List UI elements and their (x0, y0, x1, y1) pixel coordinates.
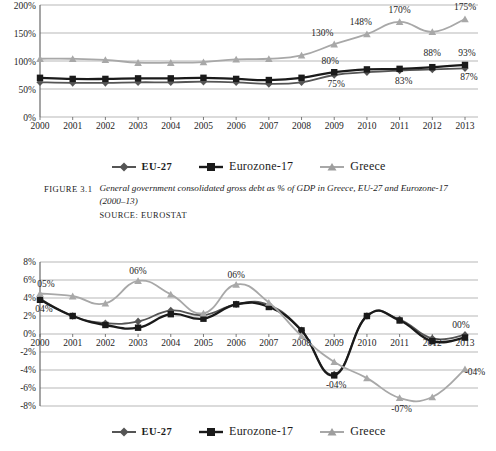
x-tick-labels: 2000200120022003200420052006200720082009… (31, 338, 475, 348)
figure-2-chart: -8%-6%-4%-2%0%2%4%6%8% 05%04%06%06%-04%-… (0, 252, 496, 422)
x-tick-label: 2006 (227, 121, 246, 131)
series-greece (36, 15, 469, 65)
data-label: -04% (326, 380, 347, 390)
x-tick-label: 2007 (259, 121, 278, 131)
y-tick: 4% (23, 293, 36, 303)
data-label: 148% (350, 17, 372, 27)
data-label: 175% (454, 2, 476, 12)
x-tick-label: 2006 (227, 338, 246, 348)
x-tick-label: 2001 (63, 338, 82, 348)
y-tick: 150% (14, 29, 36, 39)
y-tick: -8% (20, 401, 36, 411)
debt-line-chart: 200% 150% 100% 50% 0% 80%75%88%83%93%87%… (0, 0, 496, 158)
y-tick: -6% (20, 383, 36, 393)
x-tick-label: 2008 (292, 121, 311, 131)
x-tick-label: 2009 (325, 121, 344, 131)
x-tick-label: 2003 (129, 338, 148, 348)
x-tick-label: 2013 (456, 338, 475, 348)
x-tick-label: 2000 (31, 121, 50, 131)
data-label: 93% (458, 48, 476, 58)
x-tick-label: 2009 (325, 338, 344, 348)
legend-label-eurozone17: Eurozone-17 (229, 424, 293, 439)
x-tick-label: 2012 (423, 121, 442, 131)
caption-tag: FIGURE 3.1 (44, 182, 92, 222)
x-tick-label: 2011 (390, 338, 409, 348)
legend-label-greece: Greece (350, 159, 385, 174)
caption-text: General government consolidated gross de… (99, 183, 447, 206)
data-label: 00% (452, 320, 470, 330)
x-tick-label: 2003 (129, 121, 148, 131)
y-tick: 2% (23, 311, 36, 321)
figure-1: 200% 150% 100% 50% 0% 80%75%88%83%93%87%… (0, 0, 496, 222)
eurozone17-legend-marker-icon (198, 426, 224, 438)
data-label: 06% (227, 270, 245, 280)
y-tick: -4% (20, 365, 36, 375)
figure-2: -8%-6%-4%-2%0%2%4%6%8% 05%04%06%06%-04%-… (0, 252, 496, 439)
greece-legend-marker-icon (319, 426, 345, 438)
x-tick-label: 2011 (390, 121, 409, 131)
legend-item-greece[interactable]: Greece (319, 159, 385, 174)
x-tick-label: 2005 (194, 121, 213, 131)
y-tick-labels: 200% 150% 100% 50% 0% (14, 1, 36, 123)
growth-line-chart: -8%-6%-4%-2%0%2%4%6%8% 05%04%06%06%-04%-… (0, 252, 496, 422)
figure-1-caption: FIGURE 3.1 General government consolidat… (44, 182, 462, 222)
data-label: 75% (328, 79, 346, 89)
x-tick-label: 2000 (31, 338, 50, 348)
legend-label-greece: Greece (350, 424, 385, 439)
data-label: -04% (465, 367, 486, 377)
legend-item-eu27[interactable]: EU-27 (111, 161, 173, 173)
x-tick-labels: 2000200120022003200420052006200720082009… (31, 121, 475, 131)
x-tick-label: 2010 (357, 121, 376, 131)
legend-item-greece[interactable]: Greece (319, 424, 385, 439)
data-label: 170% (389, 5, 411, 15)
data-label: 87% (460, 72, 478, 82)
y-tick: 6% (23, 275, 36, 285)
x-tick-label: 2004 (161, 338, 180, 348)
eu27-legend-marker-icon (111, 161, 137, 173)
series-eu-27 (36, 295, 468, 378)
legend-label-eu27: EU-27 (142, 161, 173, 172)
figure-2-legend: EU-27 Eurozone-17 Greece (0, 424, 496, 439)
data-label: 06% (129, 266, 147, 276)
greece-legend-marker-icon (319, 161, 345, 173)
x-tick-label: 2008 (292, 338, 311, 348)
legend-item-eurozone17[interactable]: Eurozone-17 (198, 424, 293, 439)
x-ticks (40, 334, 465, 337)
data-label: 04% (35, 304, 53, 314)
eu27-legend-marker-icon (111, 426, 137, 438)
y-tick: -2% (20, 347, 36, 357)
x-tick-label: 2001 (63, 121, 82, 131)
x-tick-label: 2005 (194, 338, 213, 348)
x-tick-label: 2012 (423, 338, 442, 348)
legend-item-eu27[interactable]: EU-27 (111, 426, 173, 438)
y-tick: 8% (23, 257, 36, 267)
x-tick-label: 2002 (96, 121, 115, 131)
data-label: -07% (391, 404, 412, 414)
y-tick: 100% (14, 57, 36, 67)
caption-source: SOURCE: EUROSTAT (99, 211, 187, 220)
legend-item-eurozone17[interactable]: Eurozone-17 (198, 159, 293, 174)
y-tick: 200% (14, 1, 36, 11)
x-tick-label: 2004 (161, 121, 180, 131)
legend-label-eu27: EU-27 (142, 426, 173, 437)
data-label: 83% (395, 76, 413, 86)
data-label: 80% (322, 56, 340, 66)
caption-body: General government consolidated gross de… (99, 182, 462, 222)
x-ticks (40, 117, 465, 120)
x-tick-label: 2010 (357, 338, 376, 348)
y-tick: 50% (19, 85, 37, 95)
eurozone17-legend-marker-icon (198, 161, 224, 173)
x-tick-label: 2007 (259, 338, 278, 348)
x-tick-label: 2002 (96, 338, 115, 348)
data-label: 88% (424, 48, 442, 58)
figure-1-chart: 200% 150% 100% 50% 0% 80%75%88%83%93%87%… (0, 0, 496, 158)
legend-label-eurozone17: Eurozone-17 (229, 159, 293, 174)
figure-1-legend: EU-27 Eurozone-17 Greece (0, 159, 496, 174)
y-tick-labels: -8%-6%-4%-2%0%2%4%6%8% (20, 257, 36, 411)
data-label: 130% (311, 28, 333, 38)
data-label: 05% (37, 279, 55, 289)
x-tick-label: 2013 (456, 121, 475, 131)
